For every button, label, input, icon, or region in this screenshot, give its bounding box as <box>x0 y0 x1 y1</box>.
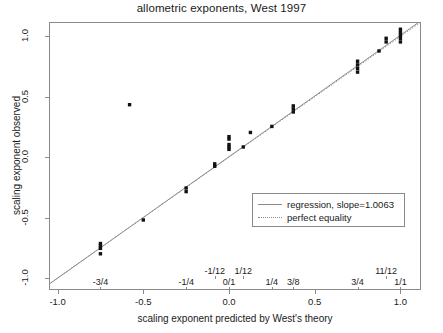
data-point <box>292 110 295 113</box>
data-point <box>292 104 295 107</box>
data-point <box>356 70 359 73</box>
x-tick-label: -1.0 <box>49 296 65 307</box>
data-point <box>270 125 273 128</box>
data-point <box>384 40 387 43</box>
x-fraction-tick-mark <box>100 287 101 290</box>
x-fraction-tick-label: 1/1 <box>394 277 407 287</box>
y-tick-label: -0.5 <box>19 200 30 234</box>
legend-label-equality: perfect equality <box>287 212 351 224</box>
x-fraction-tick-mark <box>293 287 294 290</box>
data-point <box>249 131 252 134</box>
data-point <box>242 145 245 148</box>
x-fraction-tick-label: 1/12 <box>235 266 253 276</box>
data-point <box>399 31 402 34</box>
y-tick-mark <box>45 278 49 279</box>
x-tick-label: -0.5 <box>135 296 151 307</box>
data-point <box>356 63 359 66</box>
legend-solid-line-icon <box>258 204 282 205</box>
data-point <box>384 37 387 40</box>
x-tick-mark <box>400 290 401 294</box>
x-fraction-tick-mark <box>386 276 387 279</box>
x-fraction-tick-label: 0/1 <box>223 277 236 287</box>
x-tick-label: 1.0 <box>394 296 407 307</box>
legend-entry-equality: perfect equality <box>258 211 399 224</box>
data-point <box>184 190 187 193</box>
x-fraction-tick-label: 1/4 <box>266 277 279 287</box>
legend-dotted-line-icon <box>258 217 282 218</box>
chart-title: allometric exponents, West 1997 <box>0 2 443 14</box>
y-tick-label: 0.0 <box>19 140 30 174</box>
data-point <box>213 162 216 165</box>
data-point <box>128 103 131 106</box>
x-fraction-tick-label: 11/12 <box>375 266 397 276</box>
x-fraction-tick-mark <box>243 276 244 279</box>
x-tick-mark <box>58 290 59 294</box>
y-tick-label: 1.0 <box>19 19 30 53</box>
x-fraction-tick-mark <box>186 287 187 290</box>
x-fraction-tick-label: 3/8 <box>287 277 300 287</box>
x-axis-label: scaling exponent predicted by West's the… <box>49 313 421 324</box>
x-fraction-tick-label: 3/4 <box>351 277 364 287</box>
data-point <box>377 49 380 52</box>
y-tick-mark <box>45 157 49 158</box>
data-point <box>227 143 230 146</box>
x-tick-mark <box>229 290 230 294</box>
x-fraction-tick-mark <box>215 276 216 279</box>
data-point <box>399 37 402 40</box>
data-point <box>399 34 402 37</box>
chart-legend: regression, slope=1.0063 perfect equalit… <box>252 193 405 227</box>
x-fraction-tick-label: -1/12 <box>204 266 225 276</box>
data-point <box>184 186 187 189</box>
x-fraction-tick-mark <box>358 287 359 290</box>
data-point <box>399 40 402 43</box>
x-tick-mark <box>315 290 316 294</box>
x-tick-mark <box>143 290 144 294</box>
data-point <box>142 218 145 221</box>
y-tick-label: -1.0 <box>19 260 30 294</box>
y-tick-mark <box>45 36 49 37</box>
x-fraction-tick-mark <box>229 287 230 290</box>
data-point <box>356 67 359 70</box>
plot-svg <box>49 22 421 290</box>
data-point <box>399 28 402 31</box>
x-tick-label: 0.5 <box>308 296 321 307</box>
x-tick-label: 0.0 <box>222 296 235 307</box>
legend-label-regression: regression, slope=1.0063 <box>287 199 394 211</box>
y-tick-label: 0.5 <box>19 79 30 113</box>
data-point <box>99 252 102 255</box>
legend-entry-regression: regression, slope=1.0063 <box>258 198 399 211</box>
data-point <box>99 242 102 245</box>
x-fraction-tick-label: -3/4 <box>93 277 109 287</box>
data-point <box>356 60 359 63</box>
chart-canvas: allometric exponents, West 1997 scaling … <box>0 0 443 333</box>
data-point <box>227 135 230 138</box>
x-fraction-tick-mark <box>272 287 273 290</box>
x-fraction-tick-mark <box>400 287 401 290</box>
y-tick-mark <box>45 218 49 219</box>
data-point <box>292 107 295 110</box>
y-tick-mark <box>45 97 49 98</box>
plot-area <box>49 22 421 290</box>
x-fraction-tick-label: -1/4 <box>178 277 194 287</box>
